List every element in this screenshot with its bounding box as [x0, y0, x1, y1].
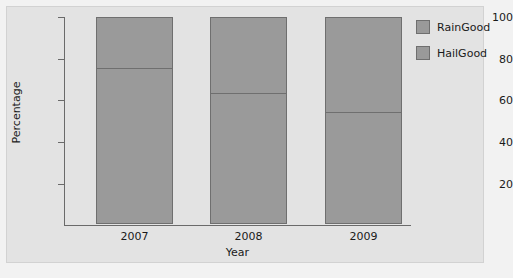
y-tick-mark-80 — [58, 59, 64, 60]
y-tick-label-40: 40 — [459, 137, 513, 148]
y-tick-mark-100 — [58, 17, 64, 18]
x-tick-label-2009: 2009 — [325, 231, 402, 243]
y-axis-title: Percentage — [10, 53, 23, 173]
bar-segment-raingood-2009[interactable] — [325, 17, 402, 113]
bar-segment-raingood-2007[interactable] — [96, 17, 173, 69]
plot-area: 100 80 60 40 20 2007 2008 2009 Year Perc… — [0, 0, 513, 278]
bar-segment-hailgood-2008[interactable] — [210, 93, 287, 224]
legend-item-hailgood[interactable]: HailGood — [416, 42, 508, 64]
chart-root: 100 80 60 40 20 2007 2008 2009 Year Perc… — [0, 0, 513, 278]
y-axis-line — [64, 17, 65, 226]
bar-group-2008[interactable] — [210, 17, 287, 225]
legend-item-raingood[interactable]: RainGood — [416, 16, 508, 38]
legend: RainGood HailGood — [416, 16, 508, 68]
bar-group-2009[interactable] — [325, 17, 402, 225]
bar-segment-hailgood-2009[interactable] — [325, 112, 402, 224]
bar-segment-raingood-2008[interactable] — [210, 17, 287, 94]
x-axis-title: Year — [64, 246, 411, 259]
y-tick-mark-60 — [58, 100, 64, 101]
y-tick-label-60: 60 — [459, 95, 513, 106]
y-tick-mark-40 — [58, 142, 64, 143]
legend-label-hailgood: HailGood — [437, 47, 487, 60]
x-axis-line — [64, 225, 411, 226]
bar-group-2007[interactable] — [96, 17, 173, 225]
legend-swatch-icon-hailgood — [416, 46, 430, 60]
x-tick-label-2007: 2007 — [96, 231, 173, 243]
bar-segment-hailgood-2007[interactable] — [96, 68, 173, 224]
y-tick-label-20: 20 — [459, 179, 513, 190]
legend-swatch-icon-raingood — [416, 20, 430, 34]
y-tick-mark-20 — [58, 184, 64, 185]
legend-label-raingood: RainGood — [437, 21, 490, 34]
x-tick-label-2008: 2008 — [210, 231, 287, 243]
